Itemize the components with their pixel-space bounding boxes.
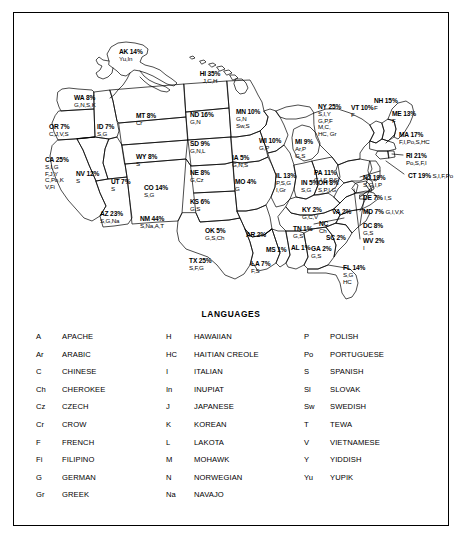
figure-border: AK 14%Yu,InHI 35%J,C,HWA 8%G,N,S,KOR 7%C… xyxy=(13,12,449,526)
legend-entry: PoPORTUGUESE xyxy=(304,343,384,361)
legend-entry: CrCROW xyxy=(36,413,105,431)
state-label-wi: WI 10%G,P xyxy=(259,138,281,152)
state-label-hi: HI 35%J,C,H xyxy=(200,71,221,85)
legend-entry: JJAPANESE xyxy=(166,395,259,413)
state-label-ny: NY 25%S,I,YG,P,FM,C,HC, Gr xyxy=(318,104,341,138)
legend-entry: VVIETNAMESE xyxy=(304,431,384,449)
state-label-ne: NE 8%G,Cz xyxy=(190,170,210,184)
state-label-ks: KS 6%G,S xyxy=(190,199,210,213)
state-label-nv: NV 12%S xyxy=(76,171,99,185)
state-label-co: CO 14%S,G xyxy=(144,185,168,199)
legend-entry: GGERMAN xyxy=(36,466,105,484)
state-label-me: ME 13%F xyxy=(392,111,416,125)
legend-column-3: PPOLISHPoPORTUGUESESSPANISHSlSLOVAKSwSWE… xyxy=(304,325,384,483)
legend-entry: FiFILIPINO xyxy=(36,448,105,466)
state-label-ga: GA 2%G,S xyxy=(311,246,331,260)
legend-entry: FFRENCH xyxy=(36,431,105,449)
state-label-ms: MS 1% xyxy=(266,247,286,254)
state-label-ok: OK 5%G,S,Ch xyxy=(205,228,225,242)
state-label-la: LA 7%F,S xyxy=(251,261,270,275)
state-callout-ma: MA 17%F,I,Po,S,HC xyxy=(399,132,430,146)
state-label-va: VA 2% xyxy=(332,209,351,216)
legend-title: LANGUAGES xyxy=(14,309,448,319)
state-callout-de: DE 7% I,S xyxy=(363,195,391,202)
state-label-mt: MT 8%Cr xyxy=(136,113,156,127)
state-label-id: ID 7%S,G xyxy=(97,124,114,138)
state-label-az: AZ 23%S,G,Na xyxy=(100,211,123,225)
state-callout-wv: WV 2%I xyxy=(363,238,384,252)
legend-entry: CCHINESE xyxy=(36,360,105,378)
state-callout-md: MD 7% G,I,V,K xyxy=(363,209,404,216)
state-label-wy: WY 8%S xyxy=(136,154,157,168)
legend-entry: LLAKOTA xyxy=(166,431,259,449)
legend-entry: ChCHEROKEE xyxy=(36,378,105,396)
legend-name: GREEK xyxy=(62,486,89,504)
state-label-or: OR 7%C,J,V,S xyxy=(49,124,69,138)
state-label-ak: AK 14%Yu,In xyxy=(119,49,143,63)
state-label-ut: UT 7%S xyxy=(111,179,130,193)
state-label-al: AL 1% xyxy=(291,245,310,252)
legend-name: NAVAJO xyxy=(194,486,224,504)
legend-entry: PPOLISH xyxy=(304,325,384,343)
legend-entry: AAPACHE xyxy=(36,325,105,343)
state-label-sd: SD 9%G,N,L xyxy=(190,141,210,155)
state-label-mi: MI 9%Ar,PG,S xyxy=(295,139,313,159)
legend-abbr: Na xyxy=(166,486,194,504)
legend-column-1: AAPACHEArARABICCCHINESEChCHEROKEECzCZECH… xyxy=(36,325,105,501)
legend-entry: NaNAVAJO xyxy=(166,483,259,501)
state-label-ia: IA 5%G,N,S xyxy=(232,155,249,169)
state-label-tn: TN 1%G,S xyxy=(293,226,312,240)
legend-abbr: Yu xyxy=(304,469,330,487)
state-label-ky: KY 2%G,C,V xyxy=(302,207,322,221)
state-callout-dc: DC 8%G,S xyxy=(363,223,383,237)
state-label-vt: VT 10%F xyxy=(351,105,374,119)
state-label-nm: NM 44%S,Na,A,T xyxy=(140,216,164,230)
state-label-ar: AR 2% xyxy=(246,232,266,239)
state-label-nd: ND 16%G,N xyxy=(190,112,214,126)
state-label-il: IL 13%P,S,GI,Gr xyxy=(276,173,296,193)
legend-entry: KKOREAN xyxy=(166,413,259,431)
state-label-mo: MO 4%G xyxy=(235,179,256,193)
legend: AAPACHEArARABICCCHINESEChCHEROKEECzCZECH… xyxy=(14,325,448,515)
us-map: AK 14%Yu,InHI 35%J,C,HWA 8%G,N,S,KOR 7%C… xyxy=(14,13,448,303)
legend-entry: HCHAITIAN CREOLE xyxy=(166,343,259,361)
state-callout-ri: RI 21%Po,S,F,I xyxy=(406,153,427,167)
us-map-outlines xyxy=(14,13,448,303)
legend-entry: TTEWA xyxy=(304,413,384,431)
state-label-ca: CA 25%S,I,GF,J,YC,Po,KV,Fi xyxy=(45,157,69,191)
state-callout-nj: NJ 19%S,G,I,P xyxy=(363,175,386,189)
state-label-pa: PA 11%G,I,S,P,Sl xyxy=(314,170,339,184)
state-label-mn: MN 10%G,NSw,S xyxy=(236,109,260,129)
legend-entry: InINUPIAT xyxy=(166,378,259,396)
legend-entry: SwSWEDISH xyxy=(304,395,384,413)
state-callout-ct: CT 19% S,I,F,Po xyxy=(408,173,453,180)
legend-entry: MMOHAWK xyxy=(166,448,259,466)
state-label-tx: TX 25%S,F,G xyxy=(189,258,212,272)
legend-name: YUPIK xyxy=(330,469,353,487)
state-label-nc: NCCh xyxy=(319,221,328,235)
state-label-sc: SC 2% xyxy=(326,235,346,242)
state-label-wa: WA 8%G,N,S,K xyxy=(74,95,96,109)
legend-entry: SlSLOVAK xyxy=(304,378,384,396)
legend-entry: NNORWEGIAN xyxy=(166,466,259,484)
legend-entry: ArARABIC xyxy=(36,343,105,361)
legend-abbr: Gr xyxy=(36,486,62,504)
legend-entry: YuYUPIK xyxy=(304,466,384,484)
state-label-fl: FL 14%S,GHC xyxy=(343,265,365,285)
map-figure: AK 14%Yu,InHI 35%J,C,HWA 8%G,N,S,KOR 7%C… xyxy=(0,0,462,539)
legend-entry: HHAWAIIAN xyxy=(166,325,259,343)
legend-column-2: HHAWAIIANHCHAITIAN CREOLEIITALIANInINUPI… xyxy=(166,325,259,501)
